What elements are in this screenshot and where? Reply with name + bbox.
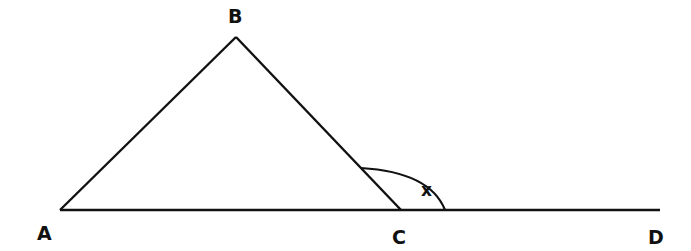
point-label-b: B — [228, 5, 242, 27]
diagram-canvas: B A C D x — [0, 0, 691, 251]
triangle-exterior-angle-diagram: B A C D x — [0, 0, 691, 251]
segment-bc — [236, 37, 401, 210]
angle-arc-x — [361, 168, 445, 210]
point-label-a: A — [37, 222, 52, 244]
point-label-d: D — [648, 226, 664, 248]
point-label-c: C — [392, 226, 406, 248]
angle-label-x: x — [421, 180, 432, 200]
segment-ab — [60, 37, 236, 210]
